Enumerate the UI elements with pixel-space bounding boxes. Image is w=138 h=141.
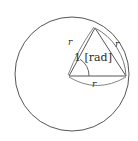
main-circle bbox=[15, 17, 129, 131]
radius-left-label: r bbox=[68, 38, 72, 47]
radius-right-label: r bbox=[115, 40, 119, 49]
radius-measure-arc bbox=[69, 77, 126, 86]
angle-label: 1 [rad] bbox=[74, 52, 112, 63]
diagram-canvas bbox=[0, 0, 138, 141]
radius-bottom-label: r bbox=[92, 80, 96, 89]
radian-diagram: r r r 1 [rad] bbox=[0, 0, 138, 141]
